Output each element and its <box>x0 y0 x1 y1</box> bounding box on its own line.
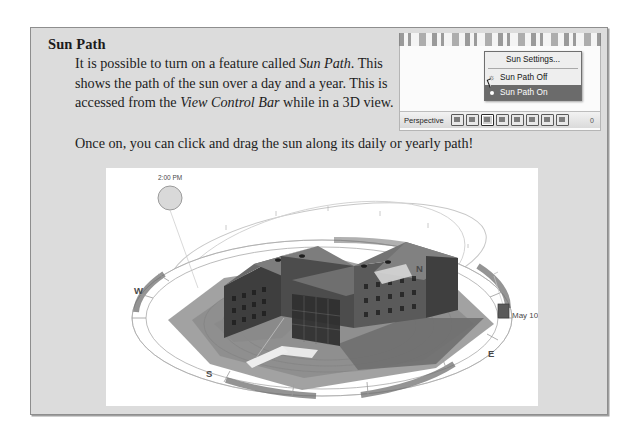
shadows-icon[interactable] <box>511 114 524 126</box>
sun-path-context-menu[interactable]: Sun Settings... ☼ Sun Path Off Sun Path … <box>484 51 582 101</box>
menu-item-sun-path-on-label: Sun Path On <box>500 87 548 97</box>
torn-edge-decoration <box>399 33 601 46</box>
para-text-1: It is possible to turn on a feature call… <box>75 55 299 71</box>
crop-view-icon[interactable] <box>541 114 554 126</box>
sun-marker-icon <box>158 186 182 210</box>
menu-item-sun-path-on[interactable]: Sun Path On <box>485 85 581 100</box>
compass-east-label: E <box>488 348 494 359</box>
view-control-icons <box>451 114 569 126</box>
paragraph-drag-sun: Once on, you can click and drag the sun … <box>75 134 575 154</box>
view-control-tail: 0 <box>590 117 597 124</box>
sun-path-render: 2:00 PM <box>106 168 538 406</box>
sun-time-label: 2:00 PM <box>158 174 182 181</box>
view-mode-label: Perspective <box>404 116 444 125</box>
sun-path-on-icon <box>490 91 494 95</box>
rendering-icon[interactable] <box>526 114 539 126</box>
compass-west-label: W <box>134 285 143 296</box>
menu-separator <box>488 68 578 69</box>
sun-path-3d-figure: 2:00 PM <box>106 168 538 406</box>
menu-item-sun-settings[interactable]: Sun Settings... <box>485 52 581 67</box>
para-italic-view-control-bar: View Control Bar <box>180 94 279 110</box>
menu-item-sun-settings-label: Sun Settings... <box>506 54 560 64</box>
screenshot-canvas: Sun Settings... ☼ Sun Path Off Sun Path … <box>399 33 601 131</box>
compass-north-label: N <box>416 263 423 274</box>
content-panel: Sun Path It is possible to turn on a fea… <box>30 27 608 415</box>
menu-item-sun-path-off[interactable]: ☼ Sun Path Off <box>485 70 581 85</box>
para-text-3: while in a 3D view. <box>280 94 394 110</box>
paragraph-intro: It is possible to turn on a feature call… <box>75 54 395 113</box>
para-italic-sun-path: Sun Path <box>299 55 351 71</box>
compass-south-label: S <box>206 368 212 379</box>
hide-crop-icon[interactable] <box>556 114 569 126</box>
scale-icon[interactable] <box>451 114 464 126</box>
menu-item-sun-path-off-label: Sun Path Off <box>500 72 547 82</box>
view-control-bar-screenshot: Sun Settings... ☼ Sun Path Off Sun Path … <box>399 33 601 131</box>
visual-style-icon[interactable] <box>481 114 494 126</box>
detail-level-icon[interactable] <box>466 114 479 126</box>
page-title: Sun Path <box>48 36 106 53</box>
sun-path-icon[interactable] <box>496 114 509 126</box>
page-root: Sun Path It is possible to turn on a fea… <box>0 0 638 442</box>
date-label: May 10 <box>512 311 538 320</box>
view-control-bar[interactable]: Perspective 0 <box>400 111 600 128</box>
